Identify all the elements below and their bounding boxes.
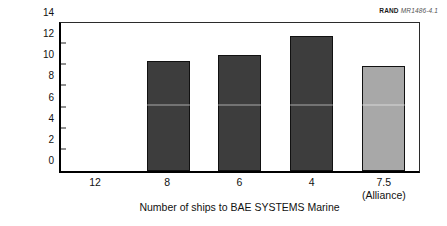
y-tick-label: 0 [28, 156, 54, 166]
x-tick-label: 4 [276, 176, 348, 202]
bar-slot [276, 23, 348, 171]
source-credit: RANDMR1486-4.1 [379, 7, 438, 14]
bar-series [61, 23, 419, 171]
y-tick-label: 2 [28, 135, 54, 145]
publisher-label: RAND [379, 7, 398, 14]
bar-slot [204, 23, 276, 171]
y-tick-label: 14 [28, 8, 54, 18]
x-tick-label: 7.5(Alliance) [348, 176, 420, 202]
x-tick-label: 12 [59, 176, 131, 202]
bar-slot [61, 23, 133, 171]
chart-figure: RANDMR1486-4.1 Cost penalty (%) 02468101… [0, 0, 447, 226]
bar-slot [133, 23, 205, 171]
bar [290, 36, 333, 171]
plot-area: 02468101214 [59, 22, 420, 173]
bar [362, 66, 405, 171]
x-axis-title: Number of ships to BAE SYSTEMS Marine [59, 201, 420, 213]
x-tick-label: 8 [131, 176, 203, 202]
y-tick-label: 12 [28, 29, 54, 39]
y-tick-label: 10 [28, 50, 54, 60]
bar-slot [347, 23, 419, 171]
y-tick-label: 8 [28, 71, 54, 81]
bar [218, 55, 261, 171]
x-axis-tick-labels: 128647.5(Alliance) [59, 176, 420, 202]
y-tick-label: 4 [28, 114, 54, 124]
document-id-label: MR1486-4.1 [401, 7, 438, 14]
bar [147, 61, 190, 171]
x-tick-label: 6 [203, 176, 275, 202]
y-tick-label: 6 [28, 93, 54, 103]
